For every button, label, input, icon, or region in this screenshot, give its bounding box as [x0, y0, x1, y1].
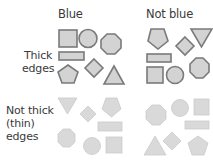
square-shape: [59, 30, 77, 47]
triangle-down-shape: [191, 29, 212, 47]
pentagon-shape: [148, 29, 168, 49]
triangle-down-shape: [58, 98, 77, 114]
circle-shape: [79, 30, 97, 48]
octagon-shape: [190, 58, 209, 78]
quadrant-notblue-thin: [144, 99, 209, 155]
rectangle-shape: [59, 52, 84, 60]
diamond-shape: [163, 132, 181, 150]
shapes-diagram: [0, 0, 213, 164]
diamond-shape: [85, 59, 103, 77]
quadrant-blue-thick: [58, 30, 124, 85]
rectangle-shape: [98, 122, 122, 131]
circle-shape: [167, 67, 184, 84]
pentagon-shape: [102, 98, 121, 117]
rectangle-shape: [147, 54, 171, 62]
quadrant-blue-thin: [58, 98, 122, 155]
octagon-shape: [146, 105, 166, 125]
square-shape: [106, 137, 122, 153]
quadrant-notblue-thick: [147, 29, 212, 84]
rectangle-shape: [185, 121, 209, 129]
circle-shape: [172, 100, 189, 117]
pentagon-shape: [188, 136, 208, 155]
square-shape: [147, 67, 163, 83]
pentagon-shape: [58, 65, 78, 83]
octagon-shape: [58, 129, 75, 147]
triangle-up-shape: [144, 136, 166, 155]
circle-shape: [84, 138, 101, 155]
clipped-caption: [0, 159, 213, 164]
diamond-shape: [176, 37, 194, 55]
square-shape: [194, 99, 209, 115]
triangle-up-shape: [104, 66, 124, 84]
diamond-shape: [80, 106, 96, 122]
octagon-shape: [101, 34, 121, 54]
